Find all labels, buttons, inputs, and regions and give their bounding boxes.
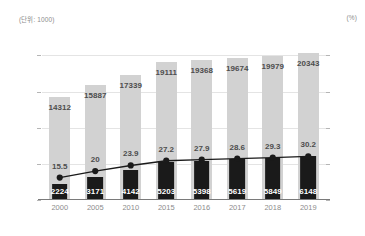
bar-column[interactable]: 19368539827.92016 (191, 41, 212, 200)
ratio-value-label: 30.2 (300, 141, 316, 149)
plot-area: 05,00010,00015,00020,000 0255075100 1431… (42, 41, 326, 200)
right-axis-tick-mark (326, 164, 330, 165)
left-axis-tick-mark (37, 128, 41, 129)
ratio-value-label: 20 (91, 156, 100, 164)
bar-column[interactable]: 19979584929.32018 (262, 41, 283, 200)
bar-column[interactable]: 19674561928.62017 (227, 41, 248, 200)
bar-subset-value-label: 2224 (51, 188, 69, 196)
bar-column[interactable]: 20343614830.22019 (298, 41, 319, 200)
bar-subset-value-label: 6148 (299, 188, 317, 196)
right-axis-tick-mark (326, 55, 330, 56)
bar-column[interactable]: 17339414223.92010 (120, 41, 141, 200)
bar-total-value-label: 19111 (156, 69, 177, 77)
bar-total-value-label: 19674 (226, 65, 248, 73)
x-axis-tick-label: 2019 (300, 204, 317, 212)
ratio-value-label: 27.2 (158, 146, 174, 154)
bar-total-value-label: 15887 (84, 92, 106, 100)
ratio-value-label: 23.9 (123, 150, 139, 158)
right-axis-tick-mark (326, 128, 330, 129)
ratio-value-label: 15.5 (52, 163, 68, 171)
bar-total-value-label: 14312 (49, 104, 71, 112)
x-axis-tick-label: 2017 (229, 204, 246, 212)
bar-subset-value-label: 5398 (193, 188, 211, 196)
left-axis-unit-label: (단위: 1000) (19, 14, 54, 24)
bar-subset-value-label: 5203 (157, 188, 175, 196)
left-axis-tick-mark (37, 55, 41, 56)
bar-subset-value-label: 4142 (122, 188, 140, 196)
x-axis-tick-label: 2016 (193, 204, 210, 212)
left-axis-tick-mark (37, 200, 41, 201)
bar-column[interactable]: 158873171202005 (85, 41, 106, 200)
right-axis-tick-mark (326, 92, 330, 93)
x-axis-baseline (38, 199, 330, 200)
right-axis-unit-label: (%) (347, 14, 357, 21)
right-axis-tick-mark (326, 200, 330, 201)
bar-total-value-label: 19368 (191, 67, 213, 75)
x-axis-tick-label: 2000 (51, 204, 68, 212)
bar-total-value-label: 17339 (120, 82, 142, 90)
x-axis-tick-label: 2005 (87, 204, 104, 212)
bar-subset-value-label: 5619 (228, 188, 246, 196)
ratio-value-label: 29.3 (265, 143, 281, 151)
bar-subset-value-label: 3171 (86, 188, 104, 196)
ratio-value-label: 28.6 (229, 144, 245, 152)
x-axis-tick-label: 2018 (264, 204, 281, 212)
chart-container: (단위: 1000) (%) 05,00010,00015,00020,000 … (0, 0, 365, 236)
bar-column[interactable]: 19111520327.22015 (156, 41, 177, 200)
bar-total-value-label: 20343 (297, 60, 319, 68)
bar-column[interactable]: 14312222415.52000 (49, 41, 70, 200)
x-axis-tick-label: 2015 (158, 204, 175, 212)
left-axis-tick-mark (37, 92, 41, 93)
left-axis-tick-mark (37, 164, 41, 165)
bar-total-value-label: 19979 (262, 63, 284, 71)
x-axis-tick-label: 2010 (122, 204, 139, 212)
ratio-value-label: 27.9 (194, 145, 210, 153)
bar-subset-value-label: 5849 (264, 188, 282, 196)
